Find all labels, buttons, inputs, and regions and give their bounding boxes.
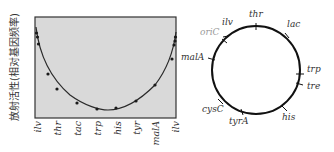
map-label-oriC: oriC (200, 27, 220, 37)
map-label-his: his (282, 112, 295, 122)
map-label-cysC: cysC (202, 104, 224, 114)
map-label-tyrA: tyrA (229, 116, 249, 126)
map-label-tre: tre (307, 81, 320, 91)
x-label-his: his (112, 121, 123, 135)
x-label-ilv-start: ilv (32, 121, 43, 132)
map-label-malA: malA (181, 52, 204, 62)
map-label-thr: thr (249, 9, 263, 19)
map-label-lac: lac (287, 19, 300, 29)
map-label-trp: trp (307, 64, 321, 74)
plot-area (35, 17, 176, 118)
gene-ticks (208, 23, 304, 115)
radioactivity-plot (0, 0, 334, 152)
x-label-tac: tac (72, 121, 83, 136)
figure: 放射活性(相对基因频率) (0, 0, 334, 152)
x-label-malA: malA (150, 121, 161, 146)
x-label-ilv-end: ilv (170, 121, 181, 132)
x-label-tyr: tyr (131, 121, 142, 135)
chromosome-map-circle (212, 26, 300, 114)
x-label-trp: trp (92, 121, 103, 135)
x-label-thr: thr (52, 121, 63, 135)
map-label-ilv: ilv (222, 17, 233, 27)
